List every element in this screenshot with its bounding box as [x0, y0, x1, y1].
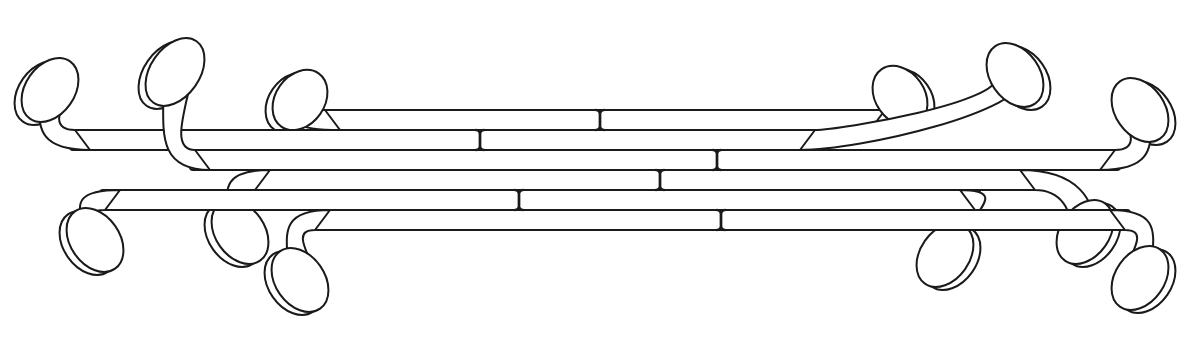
strip-band	[100, 190, 980, 210]
stacked-strips-figure	[0, 0, 1203, 337]
patent-line-drawing	[0, 0, 1203, 337]
strip-band	[320, 110, 890, 130]
paddle-left-up	[3, 47, 90, 150]
strip-band	[250, 170, 1040, 190]
paddle-right-up	[1100, 67, 1187, 170]
strips-group	[3, 27, 1187, 326]
strip-band	[190, 150, 1120, 170]
